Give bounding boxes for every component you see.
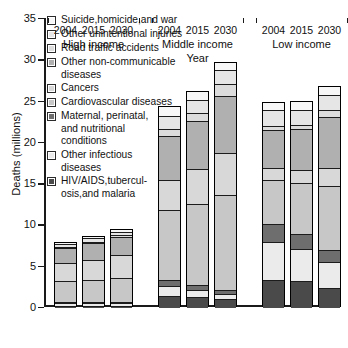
bar-segment: [83, 261, 104, 281]
legend-item[interactable]: Road traffic accidents: [47, 42, 217, 55]
y-tick-label: 30: [24, 54, 36, 65]
bar-segment: [319, 251, 340, 263]
y-tick-label: 15: [24, 178, 36, 189]
bar-segment: [291, 184, 312, 235]
bar-segment: [215, 97, 236, 154]
bar-segment: [159, 281, 180, 288]
x-tick-label-year: 2030: [214, 24, 237, 36]
x-tick-label-year: 2004: [262, 24, 285, 36]
x-group-tick: [243, 18, 244, 23]
legend-item[interactable]: Other non-communicable diseases: [47, 56, 217, 81]
bar-segment: [111, 279, 132, 303]
bar-segment: [215, 71, 236, 85]
bar-segment: [263, 103, 284, 111]
bar-segment: [187, 291, 208, 298]
bar-segment: [263, 225, 284, 243]
x-tick-label-year: 2030: [318, 24, 341, 36]
bar-segment: [319, 169, 340, 187]
bar-segment: [319, 187, 340, 251]
y-tick: [38, 101, 44, 102]
bar-segment: [215, 63, 236, 71]
legend-label: Cancers: [61, 82, 99, 95]
bar-segment: [55, 264, 76, 281]
legend-label: Suicide,homicide,and war: [61, 14, 177, 27]
y-tick-label: 25: [24, 96, 36, 107]
legend-swatch-icon: [47, 84, 56, 93]
bar-segment: [83, 281, 104, 303]
bar-segment: [215, 85, 236, 97]
y-tick: [38, 18, 44, 19]
x-group-label: Low income: [272, 38, 331, 50]
bar-segment: [215, 196, 236, 292]
legend-item[interactable]: Maternal, perinatal, and nutritional con…: [47, 110, 217, 148]
legend-label: HIV/AIDS,tubercul- osis,and malaria: [61, 175, 147, 200]
stacked-bar[interactable]: [82, 236, 105, 307]
legend-swatch-icon: [47, 98, 56, 107]
legend-label: Other non-communicable diseases: [61, 56, 175, 81]
legend-label: Cardiovascular diseases: [61, 96, 172, 109]
bar-segment: [111, 307, 132, 309]
bar-segment: [263, 131, 284, 169]
bar-segment: [319, 96, 340, 112]
legend-swatch-icon: [47, 16, 56, 25]
bar-segment: [263, 111, 284, 127]
bar-segment: [159, 287, 180, 297]
y-axis-title: Deaths (millions): [10, 94, 22, 214]
y-tick-label: 35: [24, 13, 36, 24]
bar-segment: [55, 249, 76, 264]
bar-segment: [111, 238, 132, 256]
bar-segment: [319, 289, 340, 308]
legend-label: Maternal, perinatal, and nutritional con…: [61, 110, 148, 148]
legend-swatch-icon: [47, 177, 56, 186]
stacked-bar[interactable]: [214, 62, 237, 307]
bar-segment: [215, 300, 236, 308]
bar-segment: [319, 118, 340, 169]
bar-segment: [83, 244, 104, 261]
stacked-bar[interactable]: [318, 86, 341, 307]
y-tick: [38, 307, 44, 308]
stacked-bar[interactable]: [110, 229, 133, 307]
legend-item[interactable]: Other infectious diseases: [47, 149, 217, 174]
y-tick: [38, 142, 44, 143]
bar-segment: [187, 298, 208, 308]
legend: Suicide,homicide,and warOther unintentio…: [47, 14, 217, 201]
legend-swatch-icon: [47, 112, 56, 121]
bar-segment: [263, 281, 284, 308]
bar-segment: [159, 211, 180, 281]
y-axis-line: [44, 18, 46, 307]
y-tick: [38, 266, 44, 267]
bar-segment: [111, 256, 132, 279]
bar-segment: [215, 154, 236, 196]
stacked-bar[interactable]: [290, 101, 313, 307]
legend-label: Road traffic accidents: [61, 42, 159, 55]
stacked-bar[interactable]: [262, 102, 285, 307]
bar-segment: [55, 307, 76, 309]
bar-segment: [291, 130, 312, 170]
bar-segment: [291, 235, 312, 250]
bar-segment: [291, 111, 312, 126]
legend-swatch-icon: [47, 44, 56, 53]
legend-item[interactable]: Suicide,homicide,and war: [47, 14, 217, 27]
legend-item[interactable]: Cancers: [47, 82, 217, 95]
legend-label: Other infectious diseases: [61, 149, 132, 174]
bar-segment: [159, 297, 180, 308]
y-tick-label: 20: [24, 137, 36, 148]
legend-label: Other unintentional injuries: [61, 28, 182, 41]
bar-segment: [291, 171, 312, 184]
legend-swatch-icon: [47, 58, 56, 67]
y-tick-label: 5: [30, 261, 36, 272]
bar-segment: [263, 169, 284, 181]
bar-segment: [263, 181, 284, 225]
bar-segment: [291, 282, 312, 308]
legend-item[interactable]: HIV/AIDS,tubercul- osis,and malaria: [47, 175, 217, 200]
stacked-bar[interactable]: [54, 242, 77, 307]
legend-swatch-icon: [47, 151, 56, 160]
legend-item[interactable]: Cardiovascular diseases: [47, 96, 217, 109]
legend-item[interactable]: Other unintentional injuries: [47, 28, 217, 41]
y-tick: [38, 224, 44, 225]
bar-segment: [291, 102, 312, 110]
y-tick-label: 10: [24, 219, 36, 230]
x-group-tick: [256, 18, 257, 23]
y-tick: [38, 183, 44, 184]
